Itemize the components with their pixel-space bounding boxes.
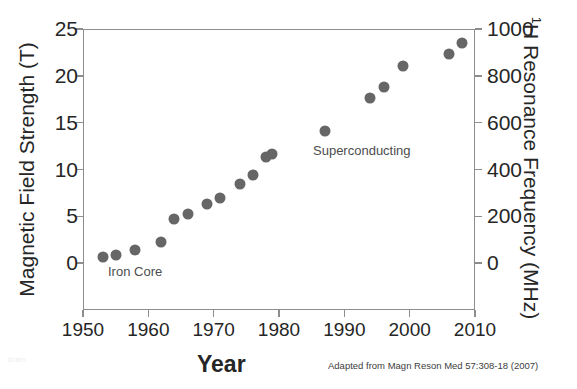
x-tick-label: 1960 [127, 320, 169, 339]
x-tick [148, 310, 149, 317]
y-axis-left-title: Magnetic Field Strength (T) [12, 29, 42, 310]
data-point [319, 126, 330, 137]
x-tick-label: 1970 [193, 320, 235, 339]
y-tick-right [475, 75, 482, 76]
data-point [443, 49, 454, 60]
y-tick-label-left: 0 [66, 252, 78, 273]
data-point [215, 192, 226, 203]
y-tick-right [475, 122, 482, 123]
data-point [97, 251, 108, 262]
y-tick-right [475, 262, 482, 263]
y-tick-label-left: 25 [55, 18, 78, 39]
annotation-superconducting: Superconducting [313, 143, 411, 158]
data-point [169, 214, 180, 225]
x-tick-label: 1950 [62, 320, 104, 339]
x-tick-label: 1990 [323, 320, 365, 339]
x-axis-title: Year [197, 351, 246, 378]
data-point [365, 93, 376, 104]
x-tick [409, 310, 410, 317]
data-point [202, 199, 213, 210]
x-tick-label: 2000 [389, 320, 431, 339]
y-tick-label-left: 10 [55, 159, 78, 180]
y-axis-right-title-text: 1H Resonance Frequency (MHz) [519, 17, 543, 320]
x-tick-label: 1980 [258, 320, 300, 339]
x-tick [278, 310, 279, 317]
y-tick-right [475, 28, 482, 29]
x-tick [82, 310, 83, 317]
x-tick [344, 310, 345, 317]
x-tick-label: 2010 [454, 320, 496, 339]
x-tick [474, 310, 475, 317]
y-tick-label-right: 0 [487, 252, 499, 273]
annotation-iron-core: Iron Core [108, 264, 162, 279]
data-point [247, 170, 258, 181]
x-tick [213, 310, 214, 317]
data-point [182, 209, 193, 220]
data-point [130, 245, 141, 256]
data-point [110, 249, 121, 260]
data-point [234, 178, 245, 189]
superscript-1: 1 [529, 17, 544, 24]
y-tick-label-left: 20 [55, 65, 78, 86]
data-point [398, 60, 409, 71]
watermark-text: brain [8, 356, 26, 363]
attribution-text: Adapted from Magn Reson Med 57:308-18 (2… [328, 360, 538, 371]
y-tick-right [475, 169, 482, 170]
data-point [378, 82, 389, 93]
data-point [456, 38, 467, 49]
chart-figure: 0510152025020040060080010001950196019701… [0, 0, 577, 389]
data-point [156, 236, 167, 247]
y-tick-right [475, 216, 482, 217]
y-axis-right-title: 1H Resonance Frequency (MHz) [517, 18, 545, 318]
y-tick-label-left: 5 [66, 205, 78, 226]
data-point [267, 148, 278, 159]
y-tick-label-left: 15 [55, 112, 78, 133]
